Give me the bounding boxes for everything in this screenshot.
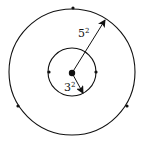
- dot-inner-left: [47, 70, 50, 73]
- dot-lower-right: [125, 104, 128, 107]
- dot-top: [71, 6, 74, 9]
- dot-inner-right: [94, 70, 97, 73]
- outer-radius-label: 52: [78, 27, 89, 40]
- inner-radius-label: 32: [64, 81, 75, 94]
- dot-lower-left: [16, 104, 19, 107]
- diagram-canvas: 52 32: [0, 0, 143, 143]
- concentric-circles-diagram: 52 32: [0, 0, 143, 143]
